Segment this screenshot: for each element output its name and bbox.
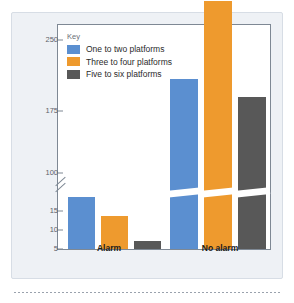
x-label-alarm: Alarm [97, 243, 121, 253]
bar-no-alarm-five-to-six[interactable] [238, 97, 266, 249]
dotted-divider [14, 292, 280, 293]
bar-alarm-one-to-two[interactable] [68, 197, 95, 249]
plot-area: 250 175 100 15 10 5 [57, 24, 271, 250]
bar-fill [134, 241, 161, 249]
legend-item-one-to-two[interactable]: One to two platforms [67, 44, 172, 54]
legend-label: Three to four platforms [86, 57, 172, 67]
bar-fill [170, 79, 198, 249]
chart-figure-panel: 250 175 100 15 10 5 [11, 12, 283, 279]
legend-title: Key [67, 32, 172, 41]
legend-item-three-to-four[interactable]: Three to four platforms [67, 57, 172, 67]
x-label-no-alarm: No alarm [202, 243, 238, 253]
bar-no-alarm-three-to-four[interactable] [204, 1, 232, 249]
y-tick-5: 5 [12, 244, 58, 253]
y-tick-15: 15 [12, 206, 58, 215]
chart-legend: Key One to two platforms Three to four p… [67, 32, 172, 82]
legend-item-five-to-six[interactable]: Five to six platforms [67, 69, 172, 79]
bar-alarm-five-to-six[interactable] [134, 241, 161, 249]
y-tick-175: 175 [12, 106, 58, 115]
bar-no-alarm-one-to-two[interactable] [170, 79, 198, 249]
y-tick-10: 10 [12, 225, 58, 234]
bar-fill [68, 197, 95, 249]
bar-fill [238, 97, 266, 249]
y-tick-250: 250 [12, 35, 58, 44]
bar-fill [204, 1, 232, 249]
y-axis-break-icon [52, 176, 68, 194]
legend-label: One to two platforms [86, 44, 164, 54]
bar-group-no-alarm [170, 25, 270, 249]
legend-swatch-icon [67, 57, 80, 66]
legend-label: Five to six platforms [86, 69, 162, 79]
legend-swatch-icon [67, 70, 80, 79]
legend-swatch-icon [67, 45, 80, 54]
